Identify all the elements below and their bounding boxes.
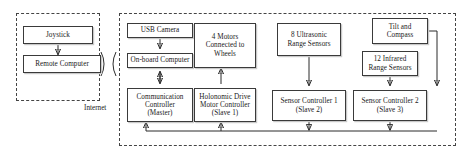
- node-tilt-and-compass: Tilt and Compass: [372, 18, 428, 44]
- node-sensor-controller-2: Sensor Controller 2 (Slave 3): [353, 90, 427, 121]
- node-remote-computer: Remote Computer: [23, 55, 101, 73]
- node-motors: 4 Motors Connected to Wheels: [194, 23, 256, 68]
- node-communication-controller: Communication Controller (Master): [127, 88, 193, 122]
- node-onboard-computer: On-board Computer: [127, 53, 193, 68]
- block-diagram: Joystick Remote Computer Internet USB Ca…: [0, 0, 466, 158]
- caption-internet: Internet: [84, 104, 106, 112]
- node-sensor-controller-1: Sensor Controller 1 (Slave 2): [272, 90, 346, 121]
- node-infrared-sensors: 12 Infrared Range Sensors: [362, 51, 418, 76]
- node-usb-camera: USB Camera: [127, 23, 193, 38]
- node-joystick: Joystick: [23, 26, 93, 44]
- node-ultrasonic-sensors: 8 Ultrasonic Range Sensors: [277, 23, 341, 56]
- node-motor-controller: Holonomic Drive Motor Controller (Slave …: [194, 88, 256, 122]
